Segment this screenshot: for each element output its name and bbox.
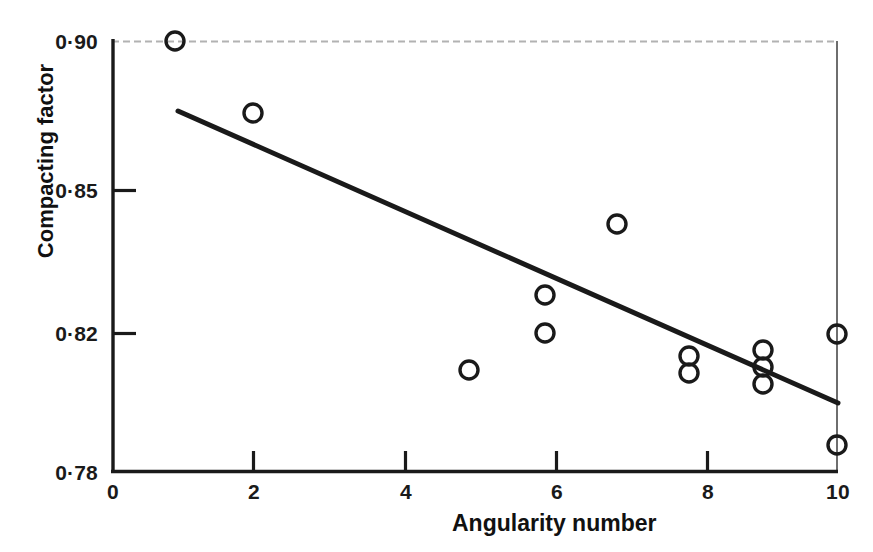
x-axis-title: Angularity number: [452, 512, 656, 535]
trend-line: [178, 111, 838, 403]
plot-canvas: [0, 0, 873, 552]
x-tick-label-4: 4: [400, 481, 412, 502]
x-tick-label-2: 2: [248, 481, 260, 502]
data-point: [608, 215, 626, 233]
data-point: [244, 104, 262, 122]
data-point: [536, 324, 554, 342]
data-point: [536, 286, 554, 304]
y-tick-label-0-82: 0·82: [0, 323, 98, 344]
data-point: [680, 364, 698, 382]
scatter-plot-figure: 0·90 0·85 0·82 0·78 0 2 4 6 8 10 Compact…: [0, 0, 873, 552]
x-tick-label-10: 10: [826, 481, 850, 502]
x-axis-ticks: [254, 451, 708, 471]
y-axis-ticks: [113, 191, 136, 334]
x-tick-label-0: 0: [107, 481, 119, 502]
y-tick-label-0-78: 0·78: [0, 462, 98, 483]
data-point: [680, 347, 698, 365]
x-tick-label-6: 6: [551, 481, 563, 502]
data-point: [754, 375, 772, 393]
data-point: [754, 341, 772, 359]
y-axis-title: Compacting factor: [35, 11, 57, 311]
data-points: [166, 32, 846, 454]
x-tick-label-8: 8: [702, 481, 714, 502]
data-point: [460, 361, 478, 379]
